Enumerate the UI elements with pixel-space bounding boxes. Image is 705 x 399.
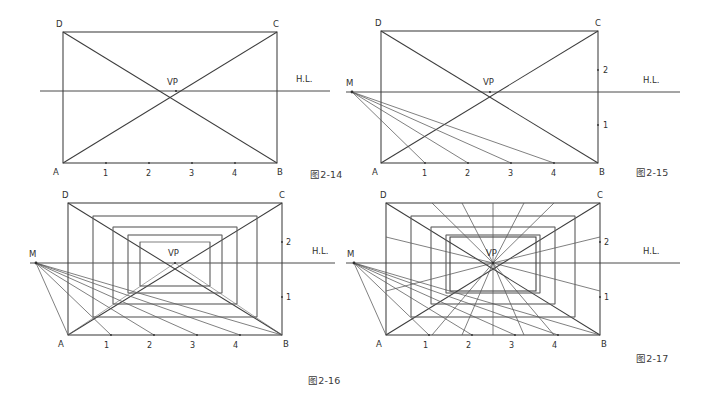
vanishing-point-dot xyxy=(492,262,494,264)
measuring-point-dot xyxy=(351,91,354,94)
label-corner-b: B xyxy=(599,167,605,177)
label-vanishing-point: VP xyxy=(167,77,178,87)
right-edge-tick-label-2: 2 xyxy=(604,238,609,247)
measuring-line-m-4 xyxy=(352,92,554,163)
label-measuring-point: M xyxy=(29,249,36,259)
measuring-line-m-2 xyxy=(36,263,154,335)
label-corner-c: C xyxy=(595,18,601,28)
baseline-tick-2 xyxy=(148,162,150,164)
figure-2-16-drawing: D C A B VP M H.L. 1 2 3 4 2 1 xyxy=(0,185,352,385)
measuring-line-m-b xyxy=(354,263,600,335)
label-vanishing-point: VP xyxy=(483,77,494,87)
label-corner-b: B xyxy=(601,339,607,349)
baseline-tick-1 xyxy=(424,162,426,164)
baseline-tick-4 xyxy=(553,162,555,164)
vanishing-point-dot xyxy=(489,91,491,93)
measuring-line-m-a xyxy=(354,263,386,335)
figure-2-14-caption: 图2-14 xyxy=(310,167,343,181)
right-edge-tick-label-2: 2 xyxy=(286,238,291,247)
vanishing-point-dot xyxy=(175,90,177,92)
label-measuring-point: M xyxy=(347,249,354,259)
baseline-tick-4 xyxy=(557,334,559,336)
figure-2-15: D C A B VP M H.L. 1 2 3 4 2 1 图2-15 xyxy=(340,0,705,185)
baseline-tick-label-2: 2 xyxy=(465,169,470,178)
measuring-line-m-2 xyxy=(354,263,472,335)
label-horizon-line: H.L. xyxy=(296,74,312,84)
right-edge-tick-2 xyxy=(281,241,283,243)
measuring-line-m-3 xyxy=(354,263,515,335)
label-horizon-line: H.L. xyxy=(312,246,328,256)
baseline-tick-2 xyxy=(153,334,155,336)
figure-2-17: D C A B VP M H.L. 1 2 3 4 2 1 图2-17 xyxy=(340,185,705,385)
baseline-tick-label-1: 1 xyxy=(103,169,108,178)
baseline-tick-label-2: 2 xyxy=(466,341,471,350)
baseline-tick-label-1: 1 xyxy=(423,341,428,350)
right-edge-tick-2 xyxy=(597,69,599,71)
label-horizon-line: H.L. xyxy=(643,75,659,85)
baseline-tick-1 xyxy=(428,334,430,336)
right-edge-tick-1 xyxy=(597,124,599,126)
label-corner-a: A xyxy=(53,167,59,177)
measuring-line-m-3 xyxy=(36,263,197,335)
baseline-tick-4 xyxy=(234,162,236,164)
figure-2-14-drawing: D C A B VP H.L. 1 2 3 4 xyxy=(0,0,352,185)
vp-ray-floor-4 xyxy=(493,263,524,335)
baseline-tick-3 xyxy=(514,334,516,336)
vp-ray-right-wall-1 xyxy=(493,237,600,263)
label-vanishing-point: VP xyxy=(168,248,179,258)
baseline-tick-1 xyxy=(110,334,112,336)
label-corner-c: C xyxy=(597,190,603,200)
baseline-tick-2 xyxy=(467,162,469,164)
measuring-line-m-a xyxy=(36,263,68,335)
label-corner-a: A xyxy=(372,167,378,177)
baseline-tick-label-4: 4 xyxy=(233,341,238,350)
label-corner-c: C xyxy=(273,19,279,29)
baseline-tick-label-1: 1 xyxy=(422,169,427,178)
baseline-tick-label-2: 2 xyxy=(147,341,152,350)
measuring-line-m-4 xyxy=(36,263,240,335)
label-corner-d: D xyxy=(62,190,69,200)
measuring-line-m-2 xyxy=(352,92,468,163)
label-corner-d: D xyxy=(56,19,63,29)
baseline-tick-label-4: 4 xyxy=(232,169,237,178)
vp-ray-left-wall-1 xyxy=(386,237,493,263)
label-corner-b: B xyxy=(277,167,283,177)
label-measuring-point: M xyxy=(346,78,353,88)
perspective-diagram-page: D C A B VP H.L. 1 2 3 4 图2-14 xyxy=(0,0,705,399)
label-corner-a: A xyxy=(376,339,382,349)
baseline-tick-1 xyxy=(105,162,107,164)
figure-2-15-caption: 图2-15 xyxy=(636,165,669,179)
baseline-tick-label-4: 4 xyxy=(551,169,556,178)
measuring-line-m-4 xyxy=(354,263,558,335)
figure-2-17-caption: 图2-17 xyxy=(636,351,669,365)
figure-2-16-caption: 图2-16 xyxy=(308,373,341,387)
right-edge-tick-2 xyxy=(599,241,601,243)
right-edge-tick-1 xyxy=(599,296,601,298)
baseline-tick-label-2: 2 xyxy=(146,169,151,178)
measuring-line-m-1 xyxy=(352,92,425,163)
label-corner-d: D xyxy=(380,190,387,200)
vp-ray-right-wall-2 xyxy=(493,263,600,291)
baseline-tick-label-3: 3 xyxy=(190,341,195,350)
floor-edge-right xyxy=(175,263,282,335)
figure-2-16: D C A B VP M H.L. 1 2 3 4 2 1 图2-16 xyxy=(0,185,352,385)
vanishing-point-dot xyxy=(174,262,176,264)
vp-ray-floor-1 xyxy=(432,263,493,335)
right-edge-tick-label-1: 1 xyxy=(603,121,608,130)
label-corner-c: C xyxy=(279,190,285,200)
measuring-point-dot xyxy=(353,262,356,265)
baseline-tick-label-1: 1 xyxy=(104,341,109,350)
right-edge-tick-label-2: 2 xyxy=(603,66,608,75)
measuring-line-m-3 xyxy=(352,92,511,163)
label-vanishing-point: VP xyxy=(486,248,497,258)
vp-ray-floor-5 xyxy=(493,263,554,335)
vp-ray-ceiling-5 xyxy=(493,203,554,263)
baseline-tick-label-4: 4 xyxy=(552,341,557,350)
vp-ray-ceiling-4 xyxy=(493,203,524,263)
baseline-tick-3 xyxy=(510,162,512,164)
label-horizon-line: H.L. xyxy=(643,246,659,256)
baseline-tick-4 xyxy=(239,334,241,336)
baseline-tick-label-3: 3 xyxy=(509,341,514,350)
label-corner-d: D xyxy=(375,18,382,28)
baseline-tick-label-3: 3 xyxy=(508,169,513,178)
